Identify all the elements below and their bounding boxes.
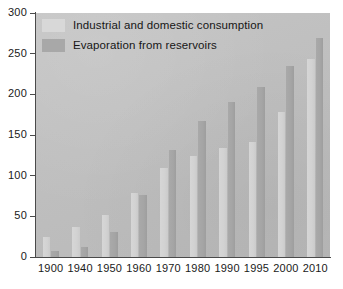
bar-2010-series2 bbox=[316, 38, 324, 257]
legend-label-evaporation: Evaporation from reservoirs bbox=[73, 38, 217, 52]
legend-label-industrial: Industrial and domestic consumption bbox=[73, 18, 263, 32]
y-axis-tick-label: 300 bbox=[0, 7, 27, 18]
bar-1940-series2 bbox=[81, 247, 89, 257]
y-axis-tick bbox=[30, 175, 36, 176]
bar-1995-series2 bbox=[257, 87, 265, 257]
legend-swatch-icon-industrial bbox=[42, 19, 65, 32]
y-axis-tick bbox=[30, 257, 36, 258]
y-axis-tick bbox=[30, 13, 36, 14]
bar-1950-series2 bbox=[110, 232, 118, 257]
legend-swatch-icon-evaporation bbox=[42, 39, 65, 52]
bar-1970-series2 bbox=[169, 150, 177, 257]
bar-1950-series1 bbox=[102, 215, 110, 257]
bar-1970-series1 bbox=[160, 168, 168, 257]
y-axis-tick-label: 50 bbox=[0, 210, 27, 221]
bar-2010-series1 bbox=[307, 59, 315, 257]
legend-entry-industrial: Industrial and domestic consumption bbox=[42, 17, 272, 34]
bar-1990-series2 bbox=[228, 102, 236, 257]
chart-legend: Industrial and domestic consumption Evap… bbox=[42, 17, 272, 57]
bar-2000-series1 bbox=[278, 112, 286, 257]
y-axis-tick-label: 0 bbox=[0, 251, 27, 262]
y-axis-tick-label: 250 bbox=[0, 48, 27, 59]
bar-1960-series1 bbox=[131, 193, 139, 257]
y-axis-tick-label: 200 bbox=[0, 88, 27, 99]
bar-1900-series1 bbox=[43, 237, 51, 257]
bar-2000-series2 bbox=[286, 66, 294, 257]
y-axis-tick bbox=[30, 53, 36, 54]
bar-1995-series1 bbox=[249, 142, 257, 257]
y-axis-tick bbox=[30, 135, 36, 136]
y-axis-tick bbox=[30, 216, 36, 217]
y-axis-tick-label: 100 bbox=[0, 170, 27, 181]
bar-1990-series1 bbox=[219, 148, 227, 257]
bar-1980-series2 bbox=[198, 121, 206, 257]
bar-1960-series2 bbox=[139, 195, 147, 257]
y-axis-tick bbox=[30, 94, 36, 95]
bar-1940-series1 bbox=[72, 227, 80, 257]
bar-chart-figure: 050100150200250300 190019401950196019701… bbox=[0, 0, 343, 289]
y-axis-tick-label: 150 bbox=[0, 129, 27, 140]
x-axis-line bbox=[35, 257, 331, 258]
bar-1980-series1 bbox=[190, 156, 198, 257]
legend-entry-evaporation: Evaporation from reservoirs bbox=[42, 37, 272, 54]
x-axis-tick-label: 2010 bbox=[298, 262, 332, 274]
